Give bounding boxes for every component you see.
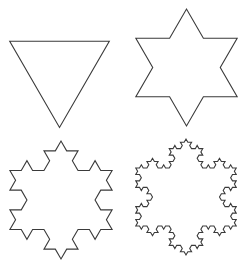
koch-iteration-2-snowflake (10, 141, 112, 259)
koch-iteration-3-snowflake (136, 139, 236, 255)
koch-iteration-0-triangle (10, 41, 110, 127)
koch-snowflake-diagram (0, 0, 249, 266)
fractal-canvas (0, 0, 249, 266)
koch-iteration-1-star (136, 9, 237, 126)
